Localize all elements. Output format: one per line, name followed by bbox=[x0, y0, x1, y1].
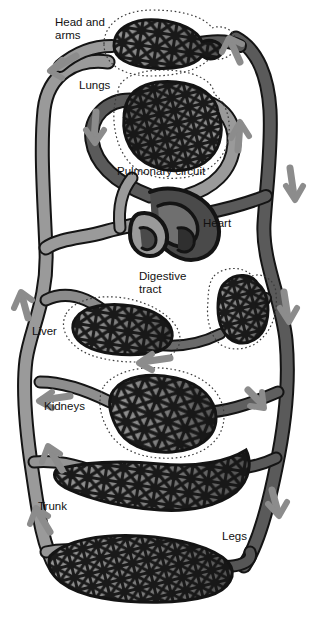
liver-capillary-bed bbox=[68, 298, 178, 360]
legs-capillary-bed bbox=[42, 530, 242, 606]
arrow-vena-cava-mid bbox=[280, 292, 297, 322]
label-lungs: Lungs bbox=[79, 79, 110, 92]
head-and-arms-capillary-bed bbox=[110, 14, 228, 74]
label-legs: Legs bbox=[222, 530, 247, 543]
label-heart: Heart bbox=[203, 217, 231, 230]
label-liver: Liver bbox=[32, 325, 57, 338]
arrow-liver-inflow bbox=[14, 292, 32, 318]
kidneys-capillary-bed bbox=[104, 368, 224, 458]
circulatory-diagram-canvas bbox=[0, 0, 316, 620]
circulatory-system-diagram: Head and arms Lungs Pulmonary circuit He… bbox=[0, 0, 316, 620]
label-digestive-tract: Digestive tract bbox=[139, 270, 186, 296]
capillary-beds bbox=[42, 14, 278, 606]
label-kidneys: Kidneys bbox=[44, 400, 85, 413]
label-head-and-arms: Head and arms bbox=[55, 16, 105, 42]
trunk-capillary-bed bbox=[50, 446, 256, 516]
label-trunk: Trunk bbox=[38, 500, 67, 513]
label-pulmonary-circuit: Pulmonary circuit bbox=[117, 165, 205, 178]
arrow-aorta-descending bbox=[286, 168, 303, 200]
